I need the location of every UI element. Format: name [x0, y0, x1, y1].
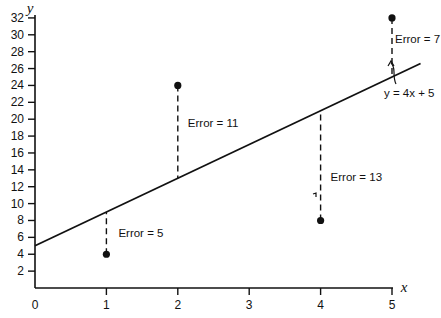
- y-tick-label: 22: [11, 95, 25, 109]
- x-tick-label: 5: [389, 298, 396, 312]
- error-label: Error = 7: [395, 33, 440, 45]
- y-tick-label: 8: [17, 213, 24, 227]
- error-label: Error = 13: [331, 171, 382, 183]
- y-tick-label: 10: [11, 197, 25, 211]
- x-tick-label: 4: [317, 298, 324, 312]
- y-tick-label: 16: [11, 146, 25, 160]
- y-axis-title: y: [25, 0, 34, 16]
- y-tick-label: 26: [11, 62, 25, 76]
- data-point: [317, 217, 324, 224]
- y-tick-label: 24: [11, 78, 25, 92]
- error-label: Error = 11: [188, 117, 239, 129]
- scatter-chart: y x 2468101214161820222426283032 012345 …: [0, 0, 441, 318]
- y-tick-label: 12: [11, 180, 25, 194]
- data-points: [103, 14, 396, 258]
- y-tick-label: 2: [17, 264, 24, 278]
- y-tick-label: 6: [17, 230, 24, 244]
- equation-annotation: y = 4x + 5: [384, 61, 435, 99]
- y-tick-label: 18: [11, 129, 25, 143]
- y-tick-label: 28: [11, 45, 25, 59]
- y-tick-label: 4: [17, 247, 24, 261]
- data-point: [388, 14, 395, 21]
- x-tick-label: 3: [246, 298, 253, 312]
- x-axis-title: x: [400, 279, 408, 295]
- y-tick-label: 14: [11, 163, 25, 177]
- data-point: [174, 82, 181, 89]
- y-tick-label: 20: [11, 112, 25, 126]
- data-point: [103, 251, 110, 258]
- x-tick-label: 2: [174, 298, 181, 312]
- equation-label: y = 4x + 5: [384, 87, 435, 99]
- x-tick-label: 1: [103, 298, 110, 312]
- y-tick-label: 30: [11, 28, 25, 42]
- error-label: Error = 5: [118, 227, 163, 239]
- residual-lines: Error = 5Error = 11Error = 13Error = 7: [106, 18, 440, 254]
- x-tick-label: 0: [32, 298, 39, 312]
- axes: y x: [25, 0, 408, 295]
- y-tick-label: 32: [11, 11, 25, 25]
- regression-line: [35, 63, 421, 245]
- x-ticks: 012345: [32, 288, 396, 312]
- fit-line: [35, 63, 421, 245]
- marker-icon: [313, 193, 316, 197]
- y-ticks: 2468101214161820222426283032: [11, 11, 35, 278]
